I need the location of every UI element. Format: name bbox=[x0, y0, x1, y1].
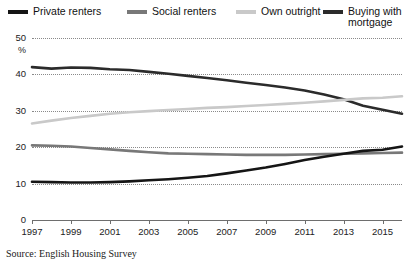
series-lines bbox=[32, 38, 402, 220]
legend-item-buying-with-mortgage[interactable]: Buying with mortgage bbox=[323, 6, 402, 28]
x-tick-mark-2009 bbox=[266, 220, 267, 224]
x-tick-label-2015: 2015 bbox=[372, 226, 393, 237]
legend-label-own-outright: Own outright bbox=[261, 6, 321, 17]
y-tick-label-0: 0 bbox=[0, 214, 26, 225]
x-tick-mark-2015 bbox=[383, 220, 384, 224]
legend-swatch-buying-with-mortgage bbox=[323, 10, 343, 14]
x-tick-mark-2011 bbox=[305, 220, 306, 224]
x-tick-label-1997: 1997 bbox=[21, 226, 42, 237]
x-tick-label-2007: 2007 bbox=[216, 226, 237, 237]
x-tick-mark-2001 bbox=[110, 220, 111, 224]
y-axis-unit-label: % bbox=[18, 45, 26, 55]
y-tick-label-40: 40 bbox=[0, 68, 26, 79]
x-tick-label-2001: 2001 bbox=[99, 226, 120, 237]
legend-item-social-renters[interactable]: Social renters bbox=[127, 6, 216, 17]
source-note: Source: English Housing Survey bbox=[6, 248, 137, 259]
legend-item-private-renters[interactable]: Private renters bbox=[8, 6, 101, 17]
legend-label-private-renters: Private renters bbox=[33, 6, 101, 17]
y-tick-label-20: 20 bbox=[0, 141, 26, 152]
x-tick-label-2011: 2011 bbox=[294, 226, 314, 237]
legend-item-own-outright[interactable]: Own outright bbox=[236, 6, 321, 17]
x-tick-mark-2005 bbox=[188, 220, 189, 224]
x-tick-label-2005: 2005 bbox=[177, 226, 198, 237]
legend-label-buying-with-mortgage: Buying with mortgage bbox=[348, 6, 402, 28]
x-tick-label-1999: 1999 bbox=[60, 226, 81, 237]
series-line-private-renters bbox=[32, 146, 402, 182]
x-axis-line bbox=[32, 220, 402, 221]
y-tick-label-50: 50 bbox=[0, 32, 26, 43]
x-tick-mark-2013 bbox=[344, 220, 345, 224]
x-tick-label-2003: 2003 bbox=[138, 226, 159, 237]
x-tick-mark-1997 bbox=[32, 220, 33, 224]
legend-swatch-social-renters bbox=[127, 10, 147, 14]
y-tick-label-10: 10 bbox=[0, 178, 26, 189]
plot-area: 50403020100 % 19971999200120032005200720… bbox=[32, 38, 402, 220]
y-tick-label-30: 30 bbox=[0, 105, 26, 116]
x-tick-label-2013: 2013 bbox=[333, 226, 354, 237]
x-tick-label-2009: 2009 bbox=[255, 226, 276, 237]
x-tick-mark-2007 bbox=[227, 220, 228, 224]
x-tick-mark-2003 bbox=[149, 220, 150, 224]
legend-swatch-own-outright bbox=[236, 10, 256, 14]
legend-label-social-renters: Social renters bbox=[152, 6, 216, 17]
series-line-own-outright bbox=[32, 96, 402, 123]
chart-legend: Private renters Social renters Own outri… bbox=[8, 4, 408, 28]
x-tick-mark-1999 bbox=[71, 220, 72, 224]
legend-swatch-private-renters bbox=[8, 10, 28, 14]
chart-root: Private renters Social renters Own outri… bbox=[0, 0, 415, 267]
